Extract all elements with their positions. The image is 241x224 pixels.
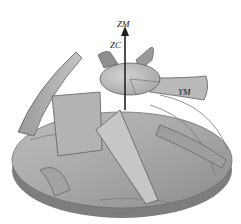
impeller-render: ZM ZC YM <box>0 0 241 224</box>
hub <box>100 63 160 95</box>
axis-label-zm: ZM <box>117 20 130 29</box>
impeller-model <box>0 0 241 224</box>
axis-label-ym: YM <box>178 88 191 97</box>
axis-label-zc: ZC <box>110 41 121 50</box>
